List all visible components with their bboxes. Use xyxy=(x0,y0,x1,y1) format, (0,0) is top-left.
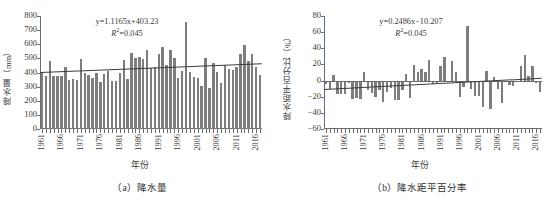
bar xyxy=(181,71,183,129)
x-axis-tick-mark xyxy=(517,129,518,133)
chart-panel-precipitation: 降水量（mm） 0100200300400500600700800 y=1.11… xyxy=(0,0,279,199)
x-axis-tick-mark xyxy=(376,129,377,133)
bar xyxy=(189,72,191,129)
bar xyxy=(119,73,121,129)
bar xyxy=(91,78,93,129)
x-axis-tick-mark xyxy=(357,129,358,133)
x-axis-tick-mark xyxy=(155,129,156,133)
bar xyxy=(255,67,257,129)
bar xyxy=(524,55,526,81)
bar xyxy=(87,75,89,129)
x-axis-tick-mark xyxy=(252,129,253,133)
x-axis-tick-label: 2011 xyxy=(233,134,241,150)
x-axis-tick-mark xyxy=(178,129,179,133)
x-axis-tick-mark xyxy=(132,129,133,133)
bar xyxy=(212,63,214,129)
y-axis-tick-label: 800 xyxy=(24,11,37,20)
x-axis-tick-mark xyxy=(506,129,507,133)
bar xyxy=(251,54,253,129)
bar xyxy=(482,81,484,108)
bar xyxy=(130,53,132,129)
bar xyxy=(394,81,396,100)
x-axis-tick-mark xyxy=(50,129,51,133)
equation-line-a: y=1.1165x+403.23 xyxy=(96,17,159,26)
bar xyxy=(390,81,392,88)
y-axis-label-b: 降水距平百分比（%） xyxy=(282,22,294,130)
x-axis-tick-mark xyxy=(170,129,171,133)
x-axis-tick-mark xyxy=(116,129,117,133)
x-axis-tick-mark xyxy=(96,129,97,133)
x-axis-tick-mark xyxy=(444,129,445,133)
y-axis-tick-label: −20 xyxy=(308,92,321,101)
bar xyxy=(232,70,234,129)
bar xyxy=(123,60,125,129)
x-axis-tick-mark xyxy=(429,129,430,133)
x-axis-tick-mark xyxy=(532,129,533,133)
x-axis-tick-mark xyxy=(229,129,230,133)
x-axis-tick-label: 1996 xyxy=(456,134,464,151)
x-axis-tick-mark xyxy=(128,129,129,133)
bar xyxy=(228,69,230,129)
x-axis-tick-mark xyxy=(513,129,514,133)
x-axis-tick-label: 1971 xyxy=(77,134,85,151)
equation-annotation-a: y=1.1165x+403.23 R2=0.045 xyxy=(52,17,202,39)
x-axis-tick-mark xyxy=(456,129,457,133)
x-axis-tick-mark xyxy=(61,129,62,133)
x-axis-tick-mark xyxy=(353,129,354,133)
bar xyxy=(161,47,163,129)
bar xyxy=(413,65,415,80)
x-axis-tick-mark xyxy=(46,129,47,133)
y-axis-tick-label: 200 xyxy=(24,96,37,105)
bar xyxy=(420,69,422,80)
x-axis-tick-mark xyxy=(490,129,491,133)
bar xyxy=(489,81,491,109)
x-axis-tick-mark xyxy=(108,129,109,133)
x-axis-tick-mark xyxy=(525,129,526,133)
y-axis-tick-label: 500 xyxy=(24,53,37,62)
y-axis-tick-label: 60 xyxy=(313,27,322,36)
x-axis-tick-mark xyxy=(402,129,403,133)
bar xyxy=(428,60,430,80)
bar xyxy=(224,65,226,129)
bar xyxy=(485,71,487,81)
x-axis-tick-mark xyxy=(529,129,530,133)
x-axis-tick-label: 2016 xyxy=(532,134,540,151)
bar xyxy=(41,72,43,129)
x-axis-tick-mark xyxy=(471,129,472,133)
x-axis-tick-mark xyxy=(217,129,218,133)
y-axis-tick-label: 300 xyxy=(24,82,37,91)
x-axis-tick-mark xyxy=(441,129,442,133)
bar xyxy=(56,76,58,129)
bar xyxy=(99,82,101,129)
x-axis-tick-mark xyxy=(104,129,105,133)
x-axis-tick-label: 2001 xyxy=(194,134,202,151)
bar xyxy=(439,66,441,81)
bar xyxy=(84,73,86,129)
x-axis-tick-mark xyxy=(502,129,503,133)
bar xyxy=(243,45,245,129)
x-axis-tick-mark xyxy=(383,129,384,133)
x-axis-tick-mark xyxy=(448,129,449,133)
x-axis-tick-mark xyxy=(433,129,434,133)
bar xyxy=(455,72,457,81)
bar xyxy=(259,75,261,129)
x-axis-tick-mark xyxy=(360,129,361,133)
x-axis-tick-mark xyxy=(54,129,55,133)
x-axis-tick-label: 1996 xyxy=(174,134,182,151)
x-axis-tick-mark xyxy=(326,129,327,133)
x-axis-tick-mark xyxy=(209,129,210,133)
x-axis-tick-mark xyxy=(143,129,144,133)
x-axis-tick-mark xyxy=(100,129,101,133)
x-axis-tick-label: 1991 xyxy=(437,134,445,151)
x-axis-tick-mark xyxy=(244,129,245,133)
bar xyxy=(216,72,218,129)
x-axis-tick-label: 2006 xyxy=(213,134,221,151)
y-axis-label-a: 降水量（mm） xyxy=(2,40,14,112)
x-axis-tick-mark xyxy=(341,129,342,133)
x-axis-tick-mark xyxy=(395,129,396,133)
x-axis-tick-label: 1961 xyxy=(322,134,330,151)
x-axis-tick-mark xyxy=(124,129,125,133)
x-axis-tick-mark xyxy=(399,129,400,133)
x-axis-tick-label: 1986 xyxy=(418,134,426,151)
bar xyxy=(45,76,47,129)
